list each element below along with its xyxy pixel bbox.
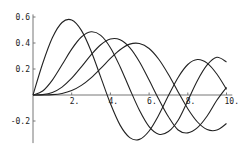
y-axis-ticks: 0.60.40.2-0.2 bbox=[11, 13, 36, 126]
y-tick-label: 0.2 bbox=[16, 65, 31, 74]
y-tick-label: 0.6 bbox=[16, 13, 31, 22]
x-tick-label: 10. bbox=[225, 97, 239, 106]
y-tick-label: 0.4 bbox=[16, 39, 31, 48]
x-tick-label: 6. bbox=[147, 97, 157, 106]
x-tick-label: 2. bbox=[70, 97, 80, 106]
curve-j3 bbox=[33, 39, 227, 133]
y-tick-label: -0.2 bbox=[11, 117, 30, 126]
curves bbox=[33, 19, 227, 140]
bessel-function-plot: 2.4.6.8.10. 0.60.40.2-0.2 bbox=[0, 0, 250, 151]
